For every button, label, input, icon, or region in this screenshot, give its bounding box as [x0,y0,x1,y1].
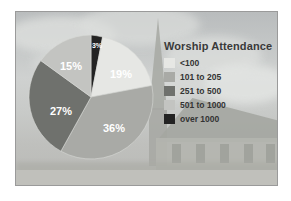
church-window [220,144,229,163]
pie-slice-label-251-to-500: 27% [50,105,72,117]
church-window [244,144,253,163]
church-window [196,144,205,163]
legend-item-501-to-1000[interactable]: 501 to 1000 [164,99,274,111]
legend-item-label: <100 [180,58,199,68]
legend-item-under-100[interactable]: <100 [164,57,274,69]
legend-item-label: 251 to 500 [180,86,221,96]
legend-swatch-icon [164,114,175,124]
legend-item-label: 101 to 205 [180,72,221,82]
legend-title: Worship Attendance [164,40,274,52]
legend-item-101-to-205[interactable]: 101 to 205 [164,71,274,83]
photo-background-panel: 3% 19% 36% 27% 15% Worship Attendance <1… [15,11,278,186]
pie-slice-label-501-to-1000: 15% [60,60,82,72]
pie-slice-label-under-100: 19% [110,68,132,80]
ground-field [16,170,278,186]
legend-swatch-icon [164,72,175,82]
legend-item-over-1000[interactable]: over 1000 [164,113,274,125]
legend-swatch-icon [164,58,175,68]
legend-item-label: 501 to 1000 [180,100,226,110]
pie-slice-label-101-to-205: 36% [103,122,125,134]
legend-item-label: over 1000 [180,114,219,124]
church-window [172,144,181,163]
church-window [266,144,275,163]
worship-attendance-chart-figure: 3% 19% 36% 27% 15% Worship Attendance <1… [0,0,291,201]
chart-legend: Worship Attendance <100 101 to 205 251 t… [164,40,274,127]
legend-swatch-icon [164,86,175,96]
pie-chart: 3% 19% 36% 27% 15% [26,32,156,162]
pie-slice-label-over-1000: 3% [92,42,103,49]
legend-item-251-to-500[interactable]: 251 to 500 [164,85,274,97]
legend-swatch-icon [164,100,175,110]
